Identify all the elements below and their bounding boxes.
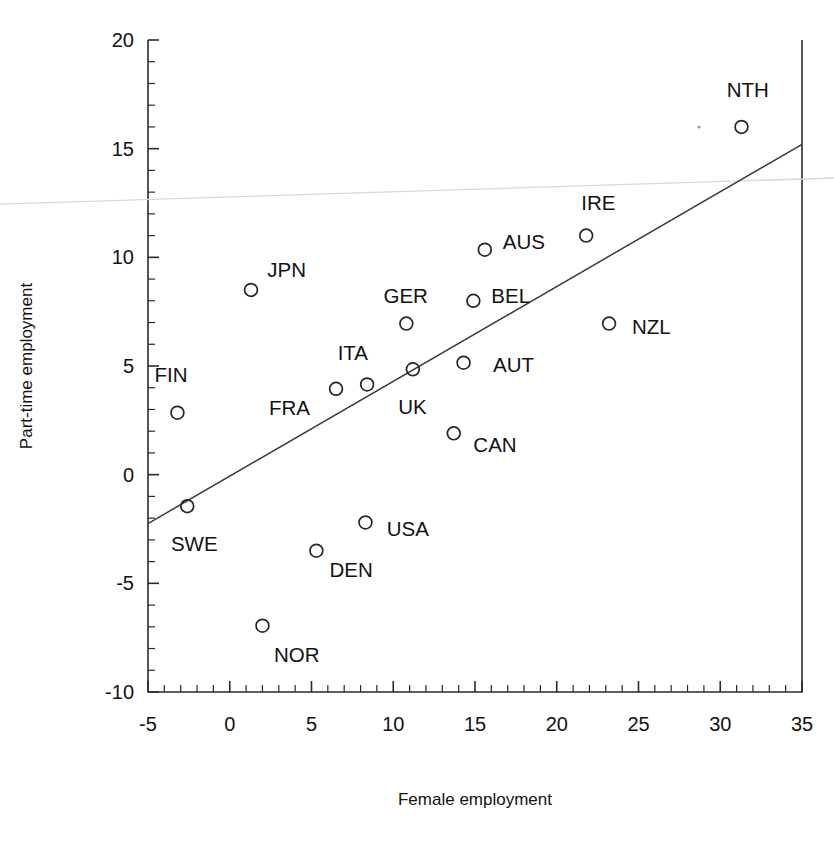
data-point-marker: [310, 544, 323, 557]
x-tick-label: 5: [306, 713, 317, 735]
scatter-chart: FINSWEJPNNORDENFRAITAUSAGERUKCANAUTBELAU…: [0, 0, 834, 844]
data-point-label: UK: [398, 395, 427, 418]
tick-labels: -505101520253035-10-505101520: [105, 29, 813, 735]
data-point-label: AUS: [503, 230, 545, 253]
y-tick-label: 15: [112, 138, 134, 160]
y-tick-label: 10: [112, 246, 134, 268]
y-axis-title: Part-time employment: [17, 283, 36, 450]
data-point-marker: [361, 378, 374, 391]
data-point-marker: [467, 294, 480, 307]
data-point-marker: [359, 516, 372, 529]
y-tick-label: -10: [105, 681, 134, 703]
data-point-marker: [400, 317, 413, 330]
data-point-marker: [447, 427, 460, 440]
x-axis-title: Female employment: [398, 790, 552, 809]
y-tick-label: 0: [123, 464, 134, 486]
data-point-label: NTH: [727, 78, 769, 101]
data-point-marker: [735, 121, 748, 134]
y-tick-label: 20: [112, 29, 134, 51]
data-point-label: JPN: [267, 258, 306, 281]
x-tick-label: 25: [627, 713, 649, 735]
x-tick-label: 15: [464, 713, 486, 735]
data-point-marker: [171, 406, 184, 419]
data-point-label: CAN: [473, 433, 516, 456]
data-point-marker: [478, 243, 491, 256]
y-tick-label: -5: [116, 572, 134, 594]
data-point-marker: [457, 356, 470, 369]
x-tick-label: 0: [224, 713, 235, 735]
scan-speck: [698, 126, 701, 129]
data-point-label: AUT: [493, 353, 534, 376]
data-point-label: GER: [383, 284, 427, 307]
data-point-label: IRE: [581, 191, 615, 214]
data-point-label: SWE: [171, 532, 218, 555]
regression-line: [148, 144, 802, 523]
data-point-label: NZL: [632, 315, 671, 338]
major-tick-marks: [148, 40, 802, 692]
data-point-label: ITA: [338, 341, 369, 364]
data-point-label: FIN: [155, 363, 188, 386]
scan-artifact-line: [0, 178, 834, 204]
y-tick-label: 5: [123, 355, 134, 377]
x-tick-label: 20: [546, 713, 568, 735]
axis-frame: [148, 40, 802, 692]
data-point-marker: [603, 317, 616, 330]
data-point-label: FRA: [269, 396, 310, 419]
data-points: FINSWEJPNNORDENFRAITAUSAGERUKCANAUTBELAU…: [155, 78, 769, 666]
data-point-marker: [330, 382, 343, 395]
x-tick-label: -5: [139, 713, 157, 735]
data-point-label: USA: [387, 517, 429, 540]
x-tick-label: 30: [709, 713, 731, 735]
data-point-marker: [245, 284, 258, 297]
x-tick-label: 10: [382, 713, 404, 735]
data-point-marker: [181, 500, 194, 513]
data-point-marker: [256, 619, 269, 632]
data-point-marker: [580, 229, 593, 242]
plot-area: FINSWEJPNNORDENFRAITAUSAGERUKCANAUTBELAU…: [0, 0, 834, 844]
data-point-label: DEN: [329, 558, 372, 581]
x-tick-label: 35: [791, 713, 813, 735]
data-point-label: NOR: [274, 643, 320, 666]
data-point-label: BEL: [491, 284, 530, 307]
minor-tick-marks: [148, 62, 786, 692]
